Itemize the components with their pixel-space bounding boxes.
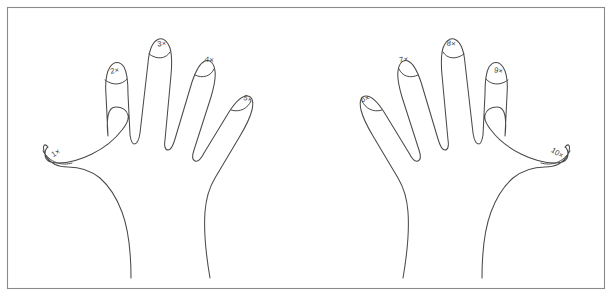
fingertip-label-4: 4× xyxy=(204,54,214,64)
hands-diagram-svg: 1×2×3×4×5× 6×7×8×9×10× xyxy=(0,0,613,300)
figure-frame xyxy=(8,8,605,289)
fingertip-label-3: 3× xyxy=(157,39,167,49)
fingertip-label-2: 2× xyxy=(109,65,119,75)
fingertip-label-8: 8× xyxy=(446,39,456,49)
diagram-canvas: 1×2×3×4×5× 6×7×8×9×10× xyxy=(0,0,613,300)
fingertip-label-7: 7× xyxy=(399,54,409,64)
fingertip-label-9: 9× xyxy=(493,65,503,75)
